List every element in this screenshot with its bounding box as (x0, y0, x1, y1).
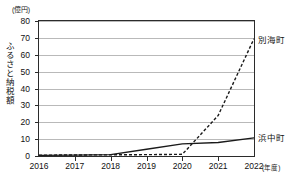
gridline (39, 122, 254, 123)
y-tick-mark (35, 89, 38, 90)
x-tick-mark (147, 157, 148, 161)
y-tick-label: 40 (8, 85, 30, 93)
y-tick-mark (35, 55, 38, 56)
y-tick-mark (35, 122, 38, 123)
y-tick-mark (35, 72, 38, 73)
y-tick-label: 70 (8, 34, 30, 42)
plot-area (38, 20, 255, 157)
x-tick-label: 2021 (202, 161, 234, 171)
x-tick-label: 2016 (23, 161, 55, 171)
y-tick-mark (35, 38, 38, 39)
x-tick-label: 2019 (131, 161, 163, 171)
gridline (39, 21, 254, 22)
x-axis-unit-label: (年度) (262, 162, 280, 172)
y-tick-label: 20 (8, 118, 30, 126)
y-tick-label: 10 (8, 135, 30, 143)
x-tick-label: 2017 (59, 161, 91, 171)
gridline (39, 72, 254, 73)
gridline (39, 139, 254, 140)
y-tick-label: 60 (8, 51, 30, 59)
y-tick-label: 50 (8, 68, 30, 76)
x-tick-mark (218, 157, 219, 161)
y-tick-label: 80 (8, 17, 30, 25)
series-label-betsukai: 別海町 (258, 33, 285, 45)
y-tick-mark (35, 139, 38, 140)
y-tick-mark (35, 105, 38, 106)
x-tick-label: 2020 (166, 161, 198, 171)
x-tick-mark (182, 157, 183, 161)
y-tick-mark (35, 156, 38, 157)
gridline (39, 55, 254, 56)
gridline (39, 89, 254, 90)
y-axis-unit-label: (億円) (12, 4, 30, 14)
gridline (39, 38, 254, 39)
y-tick-mark (35, 21, 38, 22)
x-tick-mark (111, 157, 112, 161)
y-tick-label: 30 (8, 101, 30, 109)
series-label-hamanaka: 浜中町 (258, 131, 285, 143)
x-tick-label: 2018 (95, 161, 127, 171)
y-tick-label: 0 (8, 152, 30, 160)
x-tick-mark (75, 157, 76, 161)
gridline (39, 105, 254, 106)
line-chart: (億円) ふるさと納税額 80706050403020100 201620172… (0, 0, 291, 184)
